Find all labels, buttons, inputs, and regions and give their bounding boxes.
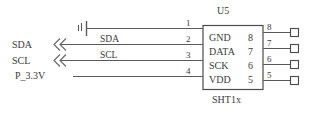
pin-number-inner-5: 5 [248,74,253,85]
pin-number-inner-8: 8 [248,32,253,43]
chassis-ground-icon [79,21,87,36]
pin-name-vdd: VDD [209,74,231,85]
ic-reference-label: U5 [217,5,229,16]
ic-part-label: SHT1x [212,94,241,105]
schematic-diagram: U5 SHT1x 1 2 3 4 GND DATA SCK VDD 8 7 6 … [0,0,314,115]
square-pad-icon-7 [291,45,299,53]
pin-number-right-5: 5 [267,70,272,80]
net-label-scl: SCL [12,55,30,66]
pin-number-inner-6: 6 [248,60,253,71]
pin-name-data: DATA [209,46,236,57]
pin-number-left-1: 1 [186,18,191,28]
pin-number-left-3: 3 [186,50,191,60]
wire-label-sda: SDA [100,34,119,44]
square-pad-icon-5 [291,77,299,85]
net-label-p33v: P_3.3V [15,70,46,81]
pin-number-right-7: 7 [267,38,272,48]
square-pad-icon-6 [291,61,299,69]
pin-number-left-2: 2 [186,34,191,44]
pin-number-inner-7: 7 [248,46,253,57]
pin-name-sck: SCK [209,60,229,71]
pin-number-left-4: 4 [186,66,191,76]
pin-name-gnd: GND [209,32,231,43]
schematic-canvas: U5 SHT1x 1 2 3 4 GND DATA SCK VDD 8 7 6 … [0,0,314,115]
wire-label-scl: SCL [100,50,118,60]
square-pad-icon-8 [291,29,299,37]
pin-number-right-8: 8 [267,22,272,32]
pin-number-right-6: 6 [267,54,272,64]
net-label-sda: SDA [12,39,33,50]
